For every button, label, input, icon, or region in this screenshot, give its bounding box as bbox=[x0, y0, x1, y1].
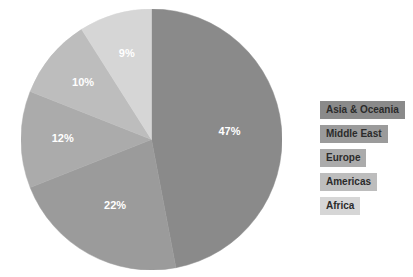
pie-slice-label: 10% bbox=[72, 76, 94, 88]
chart-legend: Asia & OceaniaMiddle EastEuropeAmericasA… bbox=[320, 101, 410, 215]
pie-slice-label: 47% bbox=[218, 125, 240, 137]
legend-item[interactable]: Africa bbox=[320, 197, 360, 215]
legend-item-label: Americas bbox=[326, 176, 371, 187]
legend-item[interactable]: Europe bbox=[320, 149, 366, 167]
pie-slice[interactable] bbox=[152, 9, 283, 268]
legend-item[interactable]: Asia & Oceania bbox=[320, 101, 405, 119]
pie-slice-label: 22% bbox=[104, 199, 126, 211]
legend-item-label: Europe bbox=[326, 152, 360, 163]
legend-item[interactable]: Americas bbox=[320, 173, 377, 191]
pie-chart-figure: 47%22%12%10%9% Asia & OceaniaMiddle East… bbox=[0, 0, 413, 277]
pie-chart-plot-area: 47%22%12%10%9% bbox=[21, 9, 282, 270]
pie-slice-label: 12% bbox=[52, 132, 74, 144]
legend-item-label: Middle East bbox=[326, 128, 382, 139]
legend-item-label: Asia & Oceania bbox=[326, 104, 399, 115]
pie-slice-label: 9% bbox=[119, 47, 135, 59]
legend-item-label: Africa bbox=[326, 200, 354, 211]
pie-chart-svg: 47%22%12%10%9% bbox=[21, 9, 282, 270]
legend-item[interactable]: Middle East bbox=[320, 125, 388, 143]
